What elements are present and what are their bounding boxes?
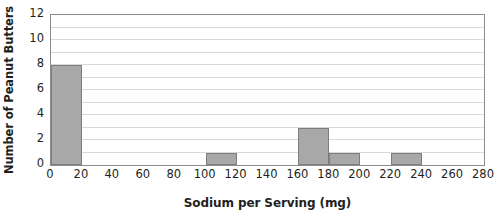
x-axis-tick-label: 240 (410, 169, 432, 181)
y-axis-tick-labels: 024681012 (18, 6, 48, 166)
x-axis-tick-label: 80 (166, 169, 181, 181)
y-axis-tick-label: 0 (37, 158, 44, 170)
bars-layer (51, 15, 484, 165)
x-axis-tick-label: 280 (472, 169, 494, 181)
x-axis-tick-label: 40 (105, 169, 120, 181)
y-axis-tick-label: 6 (37, 83, 44, 95)
y-axis-tick-label: 4 (37, 108, 44, 120)
y-axis-tick-label: 10 (29, 33, 44, 45)
x-axis-tick-label: 180 (317, 169, 339, 181)
bar (206, 153, 237, 166)
x-axis-title-label: Sodium per Serving (mg) (184, 196, 351, 210)
x-axis-tick-labels: 020406080100120140160180200220240260280 (50, 169, 485, 189)
y-axis-title: Number of Peanut Butters (0, 0, 18, 180)
x-axis-tick-label: 60 (135, 169, 150, 181)
x-axis-title: Sodium per Serving (mg) (50, 196, 485, 210)
x-axis-tick-label: 140 (256, 169, 278, 181)
x-axis-tick-label: 200 (348, 169, 370, 181)
histogram-chart: Number of Peanut Butters 024681012 02040… (0, 0, 502, 223)
bar (329, 153, 360, 166)
x-axis-tick-label: 100 (194, 169, 216, 181)
bar (51, 65, 82, 165)
y-axis-title-label: Number of Peanut Butters (2, 6, 16, 174)
y-axis-tick-label: 8 (37, 58, 44, 70)
bar (298, 128, 329, 166)
x-axis-tick-label: 0 (46, 169, 53, 181)
x-axis-tick-label: 20 (74, 169, 89, 181)
y-axis-tick-label: 12 (29, 8, 44, 20)
x-axis-tick-label: 260 (441, 169, 463, 181)
x-axis-tick-label: 160 (286, 169, 308, 181)
y-axis-tick-label: 2 (37, 133, 44, 145)
x-axis-tick-label: 120 (225, 169, 247, 181)
plot-area (50, 14, 485, 166)
bar (391, 153, 422, 166)
x-axis-tick-label: 220 (379, 169, 401, 181)
